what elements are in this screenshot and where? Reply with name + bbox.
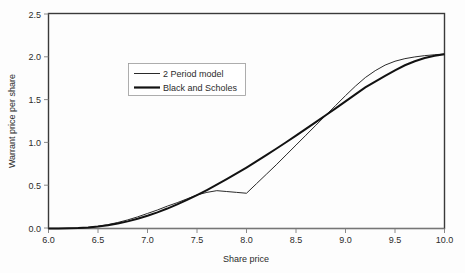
x-tick-label: 7.5 — [191, 235, 204, 245]
y-tick-label: 2.5 — [28, 10, 41, 20]
x-tick-label: 10.0 — [436, 235, 454, 245]
series-line-black-and-scholes — [49, 54, 445, 228]
line-chart-canvas: 2.5 2.0 1.5 1.0 0.5 0.0 6.0 6.5 7.0 7.5 — [0, 0, 465, 273]
y-tick-label: 1.5 — [28, 95, 41, 105]
chart-legend: 2 Period model Black and Scholes — [129, 64, 246, 96]
x-tick-label: 6.5 — [92, 235, 105, 245]
series-line-2-period-model — [49, 54, 445, 229]
legend-label: Black and Scholes — [163, 83, 238, 93]
y-tick-label: 2.0 — [28, 52, 41, 62]
legend-label: 2 Period model — [163, 69, 224, 79]
plot-frame — [49, 14, 445, 229]
y-tick-label: 1.0 — [28, 138, 41, 148]
x-tick-label: 7.0 — [141, 235, 154, 245]
y-tick-labels: 2.5 2.0 1.5 1.0 0.5 0.0 — [28, 10, 41, 234]
x-tick-labels: 6.0 6.5 7.0 7.5 8.0 8.5 9.0 9.5 10.0 — [42, 235, 453, 245]
x-tick-label: 8.5 — [290, 235, 303, 245]
x-tick-label: 9.0 — [339, 235, 352, 245]
chart-figure: 2.5 2.0 1.5 1.0 0.5 0.0 6.0 6.5 7.0 7.5 — [0, 0, 465, 273]
y-tick-label: 0.5 — [28, 181, 41, 191]
x-tick-label: 8.0 — [240, 235, 253, 245]
x-tick-label: 9.5 — [389, 235, 402, 245]
x-axis-title: Share price — [223, 254, 269, 264]
y-axis-title: Warrant price per share — [7, 74, 17, 168]
y-tick-label: 0.0 — [28, 224, 41, 234]
x-tick-label: 6.0 — [42, 235, 55, 245]
